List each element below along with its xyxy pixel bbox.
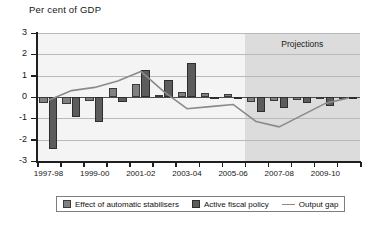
y-tick xyxy=(31,118,36,120)
y-tick-label: -2 xyxy=(5,134,27,144)
x-tick xyxy=(268,162,270,167)
x-tick-label: 2007-08 xyxy=(265,169,294,178)
y-tick xyxy=(31,161,36,163)
legend-swatch-stabilisers-icon xyxy=(63,200,71,208)
x-tick xyxy=(83,162,85,167)
y-tick-label: 3 xyxy=(5,27,27,37)
chart-title: Per cent of GDP xyxy=(29,4,101,15)
x-tick xyxy=(106,162,108,167)
x-tick xyxy=(152,162,154,167)
chart-legend: Effect of automatic stabilisers Active f… xyxy=(56,196,345,212)
x-tick xyxy=(60,162,62,167)
x-tick-label: 2009-10 xyxy=(311,169,340,178)
legend-label-stabilisers: Effect of automatic stabilisers xyxy=(75,200,179,209)
y-tick xyxy=(31,97,36,99)
x-tick xyxy=(291,162,293,167)
x-tick xyxy=(199,162,201,167)
y-tick-label: -3 xyxy=(5,155,27,165)
chart-figure: Per cent of GDP 3210-1-2-3 1997-981999-0… xyxy=(0,0,371,228)
y-tick-label: 2 xyxy=(5,48,27,58)
y-tick-label: -1 xyxy=(5,112,27,122)
x-tick xyxy=(175,162,177,167)
x-tick xyxy=(129,162,131,167)
legend-label-fiscal: Active fiscal policy xyxy=(204,200,269,209)
y-tick xyxy=(31,75,36,77)
x-tick-label: 2005-06 xyxy=(218,169,247,178)
x-tick xyxy=(37,162,39,167)
x-tick xyxy=(222,162,224,167)
output-gap-line xyxy=(37,33,360,161)
x-tick-label: 1997-98 xyxy=(34,169,63,178)
output-gap-polyline xyxy=(49,71,349,126)
projections-annotation: Projections xyxy=(281,39,323,49)
y-tick xyxy=(31,139,36,141)
legend-item-fiscal: Active fiscal policy xyxy=(192,200,269,209)
x-tick xyxy=(314,162,316,167)
y-axis xyxy=(36,32,38,162)
y-tick-label: 1 xyxy=(5,70,27,80)
x-tick-label: 2003-04 xyxy=(172,169,201,178)
legend-item-stabilisers: Effect of automatic stabilisers xyxy=(63,200,179,209)
legend-item-output-gap: Output gap xyxy=(282,200,339,209)
y-tick xyxy=(31,33,36,35)
x-tick xyxy=(360,162,362,167)
x-tick-label: 1999-00 xyxy=(80,169,109,178)
x-tick xyxy=(245,162,247,167)
legend-label-output-gap: Output gap xyxy=(299,200,339,209)
x-tick-label: 2001-02 xyxy=(126,169,155,178)
legend-swatch-fiscal-icon xyxy=(192,200,200,208)
legend-line-output-gap-icon xyxy=(282,204,295,205)
y-tick-label: 0 xyxy=(5,91,27,101)
x-tick xyxy=(337,162,339,167)
y-tick xyxy=(31,54,36,56)
